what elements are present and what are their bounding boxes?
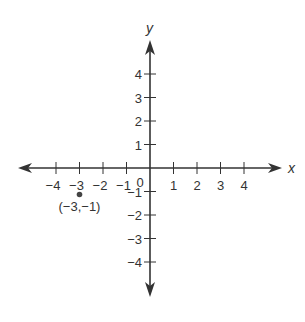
- x-tick-label: 3: [217, 178, 224, 193]
- data-point-label: (−3,−1): [59, 199, 101, 214]
- x-tick-label: 1: [170, 178, 177, 193]
- y-tick-label: −3: [127, 232, 142, 247]
- x-tick-label: −4: [46, 178, 61, 193]
- points: (−3,−1): [59, 192, 101, 214]
- origin-label: 0: [136, 175, 143, 190]
- y-tick-label: 1: [135, 138, 142, 153]
- y-tick-label: 4: [135, 67, 142, 82]
- x-tick-label: 4: [240, 178, 247, 193]
- y-tick-label: −4: [127, 255, 142, 270]
- y-tick-label: 2: [135, 114, 142, 129]
- x-tick-label: −2: [93, 178, 108, 193]
- data-point: [77, 192, 83, 198]
- x-tick-label: 2: [193, 178, 200, 193]
- x-axis-label: x: [287, 160, 296, 176]
- coordinate-plane: xy −4−3−2−11234−4−3−2−112340 (−3,−1): [0, 0, 305, 322]
- y-axis-label: y: [145, 20, 154, 36]
- y-tick-label: 3: [135, 91, 142, 106]
- x-tick-label: −3: [69, 178, 84, 193]
- axes: xy: [18, 20, 296, 297]
- y-tick-label: −2: [127, 208, 142, 223]
